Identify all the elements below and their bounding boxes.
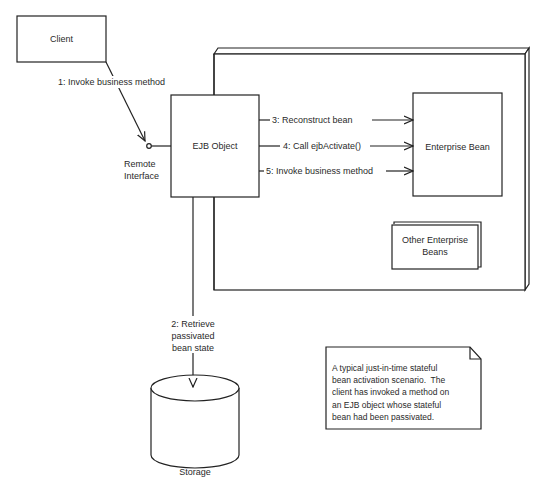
note-line: an EJB object whose stateful	[332, 399, 449, 411]
note-text: A typical just-in-time stateful bean act…	[332, 362, 449, 423]
note-line: bean had been passivated.	[332, 411, 449, 423]
edge-label-1: 1: Invoke business method	[57, 76, 166, 88]
enterprise-bean-label: Enterprise Bean	[413, 141, 502, 153]
storage-label: Storage	[151, 466, 239, 478]
remote-interface-label-1: Remote	[124, 158, 156, 170]
note-line: A typical just-in-time stateful	[332, 362, 449, 374]
edge-label-3: 3: Reconstruct bean	[272, 114, 353, 126]
note-line: bean activation scenario. The	[332, 374, 449, 386]
edge-label-2-line3: bean state	[160, 342, 226, 354]
edge-label-2-line1: 2: Retrieve	[160, 318, 226, 330]
remote-interface-label-2: Interface	[124, 170, 159, 182]
remote-interface-icon	[147, 144, 152, 149]
edge-label-4: 4: Call ejbActivate()	[283, 140, 361, 152]
ejb-object-label: EJB Object	[171, 140, 259, 152]
edge-label-5: 5: Invoke business method	[266, 165, 373, 177]
other-beans-label-2: Beans	[392, 246, 478, 258]
edge-label-2-line2: passivated	[160, 330, 226, 342]
other-beans-label-1: Other Enterprise	[392, 234, 478, 246]
note-line: client has invoked a method on	[332, 386, 449, 398]
edge-invoke-business-method-1	[106, 62, 145, 141]
storage-cylinder[interactable]	[151, 375, 239, 468]
client-label: Client	[17, 33, 106, 45]
